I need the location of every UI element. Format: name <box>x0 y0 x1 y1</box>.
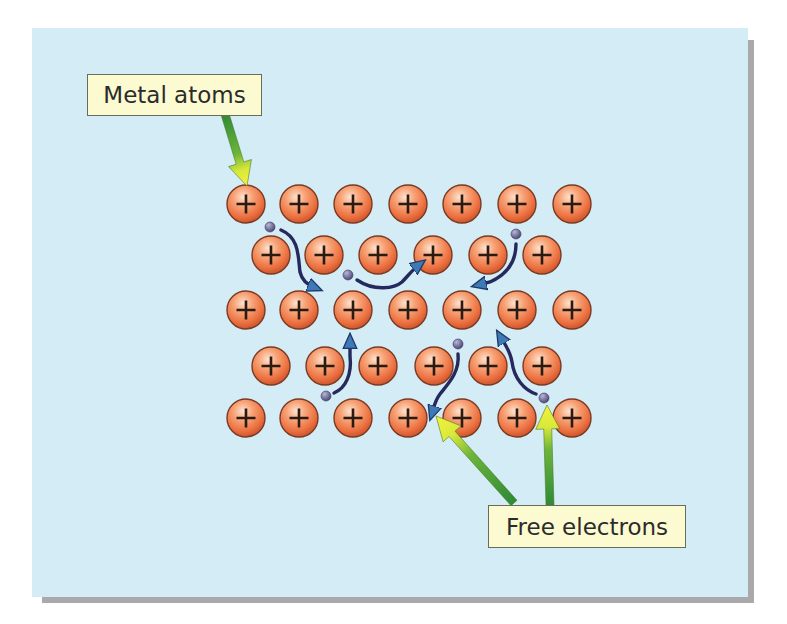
metal-atom <box>523 347 561 385</box>
metal-atom <box>469 236 507 274</box>
metal-atom <box>334 291 372 329</box>
metal-atom <box>415 347 453 385</box>
free-electron <box>321 391 331 401</box>
metal-atom <box>280 399 318 437</box>
metal-atom <box>469 347 507 385</box>
metal-atom <box>498 399 536 437</box>
free-electron <box>511 229 521 239</box>
metal-atom <box>280 185 318 223</box>
free-electron <box>343 270 353 280</box>
metal-atom <box>389 185 427 223</box>
metal-atom <box>389 291 427 329</box>
metal-atom <box>443 291 481 329</box>
metal-atom <box>359 236 397 274</box>
free-electron <box>265 222 275 232</box>
metal-atom <box>334 185 372 223</box>
metal-atoms-label: Metal atoms <box>87 74 262 116</box>
free-electrons-label-text: Free electrons <box>506 514 668 540</box>
free-electron <box>539 393 549 403</box>
metal-atom <box>498 291 536 329</box>
pointer-arrow-icon <box>221 113 251 186</box>
metal-atom <box>359 347 397 385</box>
metal-atom <box>280 291 318 329</box>
metal-atoms-label-text: Metal atoms <box>103 82 245 108</box>
metal-atom <box>227 291 265 329</box>
metal-atom <box>334 399 372 437</box>
metal-atom <box>252 236 290 274</box>
metal-atom <box>443 185 481 223</box>
metal-atom <box>553 399 591 437</box>
metal-atom <box>498 185 536 223</box>
metal-atom-lattice <box>227 185 591 437</box>
free-electrons-label: Free electrons <box>488 505 686 548</box>
metal-atom <box>252 347 290 385</box>
metal-atom <box>306 347 344 385</box>
metal-atom <box>553 291 591 329</box>
metal-atom <box>227 399 265 437</box>
metal-atom <box>227 185 265 223</box>
metal-atom <box>389 399 427 437</box>
metal-atom <box>523 236 561 274</box>
metal-atom <box>305 236 343 274</box>
metal-atom <box>414 236 452 274</box>
metal-atom <box>553 185 591 223</box>
free-electron <box>453 339 463 349</box>
